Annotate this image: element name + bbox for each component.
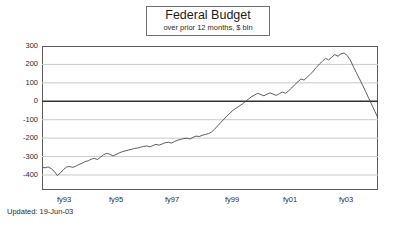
x-tick-fy01: fy01 [283,196,297,204]
x-tick-fy95: fy95 [109,196,123,204]
federal-budget-chart: Federal Budget over prior 12 months, $ b… [0,0,400,226]
updated-note: Updated: 19-Jun-03 [7,207,73,216]
x-tick-fy99: fy99 [225,196,239,204]
x-tick-fy93: fy93 [57,196,71,204]
x-axis-labels: fy93 fy95 fy97 fy99 fy01 fy03 [0,0,400,226]
x-tick-fy97: fy97 [165,196,179,204]
x-tick-fy03: fy03 [339,196,353,204]
